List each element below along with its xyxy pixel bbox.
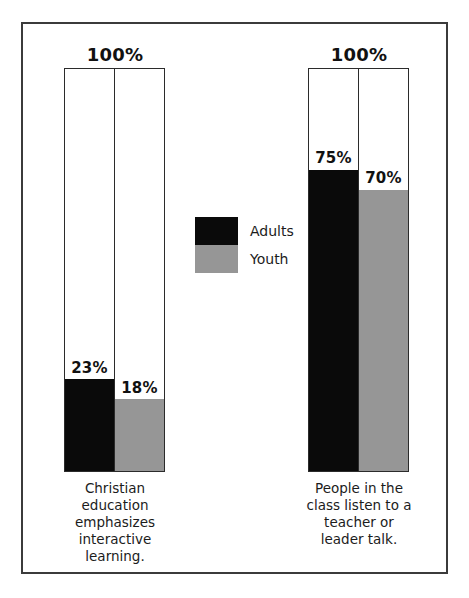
bar-youth[interactable] xyxy=(358,68,409,472)
caption-line: People in the xyxy=(294,480,424,497)
bar-fill-youth xyxy=(115,399,164,471)
caption-line: education xyxy=(50,497,180,514)
legend-label-youth: Youth xyxy=(250,245,289,273)
bar-value-label-youth: 70% xyxy=(358,169,409,187)
group-caption: Christian education emphasizes interacti… xyxy=(50,480,180,565)
caption-line: learning. xyxy=(50,548,180,565)
bar-value-label-adults: 75% xyxy=(308,149,359,167)
bar-fill-adults xyxy=(65,379,114,471)
bar-adults[interactable] xyxy=(64,68,115,472)
legend-label-adults: Adults xyxy=(250,217,294,245)
legend-swatch-adults xyxy=(195,217,238,245)
caption-line: Christian xyxy=(50,480,180,497)
caption-line: class listen to a xyxy=(294,497,424,514)
bar-value-label-youth: 18% xyxy=(114,379,165,397)
caption-line: emphasizes xyxy=(50,514,180,531)
group-caption: People in the class listen to a teacher … xyxy=(294,480,424,548)
chart-frame: 100% 23% 18% Christian education emphasi… xyxy=(21,22,448,574)
bar-fill-youth xyxy=(359,190,408,471)
caption-line: teacher or xyxy=(294,514,424,531)
bar-youth[interactable] xyxy=(114,68,165,472)
legend-swatch-youth xyxy=(195,245,238,273)
chart-legend: Adults Youth xyxy=(195,217,325,273)
legend-swatches xyxy=(195,217,238,273)
bar-fill-adults xyxy=(309,170,358,472)
caption-line: interactive xyxy=(50,531,180,548)
group-total-label: 100% xyxy=(64,44,166,65)
chart-canvas: 100% 23% 18% Christian education emphasi… xyxy=(0,0,469,598)
bar-pair: 23% 18% xyxy=(64,68,166,472)
caption-line: leader talk. xyxy=(294,531,424,548)
group-total-label: 100% xyxy=(308,44,410,65)
bar-value-label-adults: 23% xyxy=(64,359,115,377)
